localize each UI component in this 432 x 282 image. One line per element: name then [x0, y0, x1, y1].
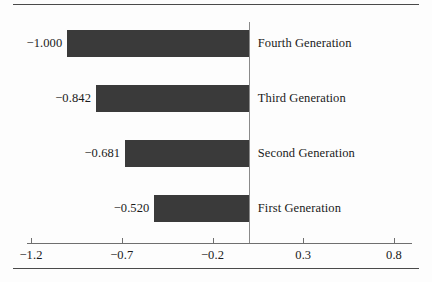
- bar-value-label: −0.681: [84, 146, 120, 161]
- zero-reference-line: [249, 22, 250, 243]
- bar-category-label: First Generation: [258, 201, 341, 216]
- x-tick-label: 0.8: [386, 248, 402, 263]
- bar-value-label: −0.520: [114, 201, 150, 216]
- x-tick-mark: [31, 238, 32, 243]
- x-tick-label: 0.3: [295, 248, 311, 263]
- bar-category-label: Third Generation: [258, 91, 346, 106]
- bar: [125, 140, 249, 167]
- bar: [154, 195, 248, 222]
- x-tick-label: −0.2: [201, 248, 224, 263]
- chart-figure: −1.000Fourth Generation−0.842Third Gener…: [0, 0, 432, 282]
- bar-value-label: −1.000: [27, 36, 63, 51]
- x-tick-mark: [394, 238, 395, 243]
- x-tick-mark: [303, 238, 304, 243]
- x-tick-mark: [122, 238, 123, 243]
- bar-category-label: Fourth Generation: [258, 36, 352, 51]
- x-axis-line: [27, 243, 412, 244]
- plot-area: −1.000Fourth Generation−0.842Third Gener…: [0, 0, 432, 282]
- bar-value-label: −0.842: [55, 91, 91, 106]
- bar-category-label: Second Generation: [258, 146, 355, 161]
- bar: [96, 85, 249, 112]
- x-tick-label: −0.7: [110, 248, 133, 263]
- bar: [67, 30, 249, 57]
- x-tick-mark: [213, 238, 214, 243]
- x-tick-label: −1.2: [19, 248, 42, 263]
